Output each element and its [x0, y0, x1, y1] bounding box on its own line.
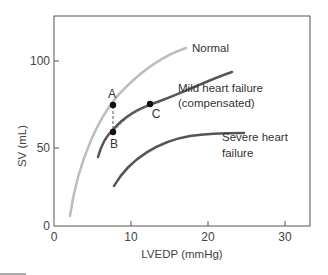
x-axis-label: LVEDP (mmHg): [141, 248, 223, 260]
point-a: [110, 102, 116, 108]
y-tick-100: 100: [30, 54, 50, 68]
normal-curve: [70, 48, 186, 216]
y-tick-50: 50: [37, 141, 51, 155]
dashed-b-c: [113, 105, 150, 132]
mild-hf-label-line1: Mild heart failure: [178, 82, 263, 94]
point-b-label: B: [110, 137, 118, 151]
mild-hf-label-line2: (compensated): [178, 97, 255, 109]
point-c-label: C: [152, 107, 161, 121]
normal-label: Normal: [192, 42, 229, 54]
x-tick-10: 10: [124, 230, 138, 244]
x-axis: 0 10 20 30 LVEDP (mmHg): [51, 221, 292, 260]
y-tick-0: 0: [43, 219, 50, 233]
point-b: [110, 129, 116, 135]
severe-hf-label-line1: Severe heart: [222, 131, 289, 143]
x-tick-20: 20: [201, 230, 215, 244]
plot-frame: [54, 16, 310, 226]
point-a-label: A: [108, 87, 116, 101]
x-tick-0: 0: [51, 230, 58, 244]
frank-starling-chart: 100 50 0 SV (mL) 0 10 20 30 LVEDP (mmHg)…: [0, 0, 328, 275]
x-tick-30: 30: [278, 230, 292, 244]
y-axis: 100 50 0 SV (mL): [16, 54, 59, 233]
severe-hf-label-line2: failure: [222, 147, 253, 159]
y-axis-label: SV (mL): [16, 125, 28, 167]
